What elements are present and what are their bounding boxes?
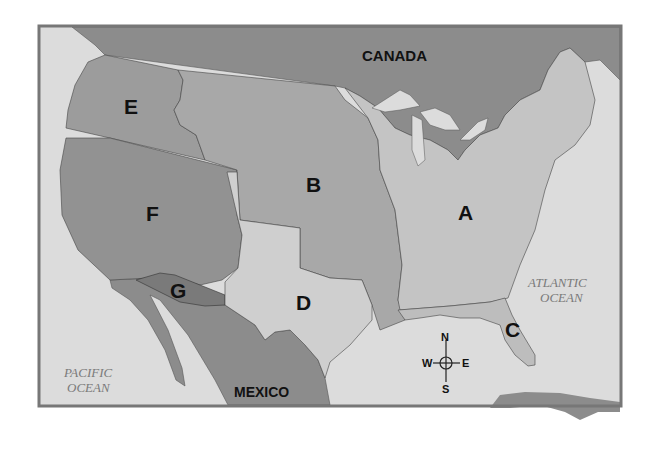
label-pacific-ocean-1: PACIFIC — [63, 365, 112, 380]
compass-s: S — [442, 383, 449, 395]
compass-e: E — [462, 357, 469, 369]
region-label-g: G — [170, 279, 186, 302]
region-label-f: F — [146, 202, 159, 225]
compass-n: N — [441, 331, 449, 343]
label-mexico: MEXICO — [234, 384, 289, 400]
label-atlantic-ocean-1: ATLANTIC — [527, 275, 587, 290]
label-canada: CANADA — [362, 47, 427, 64]
region-label-a: A — [458, 201, 473, 224]
region-label-d: D — [296, 291, 311, 314]
label-pacific-ocean-2: OCEAN — [67, 380, 111, 395]
region-label-e: E — [124, 95, 138, 118]
territory-map: CANADA MEXICO E B A F D G C PACIFIC OCEA… — [0, 0, 660, 460]
region-label-c: C — [505, 318, 520, 341]
label-atlantic-ocean-2: OCEAN — [540, 290, 584, 305]
region-label-b: B — [306, 173, 321, 196]
compass-w: W — [422, 357, 433, 369]
